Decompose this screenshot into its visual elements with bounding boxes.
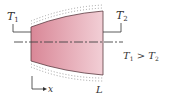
t2-leader-line: [103, 23, 121, 32]
t1-label: T1: [7, 10, 19, 24]
temperature-relation-label: T1 > T2: [123, 50, 159, 62]
fin-body: [31, 11, 103, 75]
t1-leader-line: [13, 24, 31, 32]
x-axis-arrowhead-icon: [43, 87, 47, 91]
t2-label: T2: [116, 9, 128, 23]
length-label: L: [95, 84, 103, 95]
tapered-fin-diagram: T1 T2 T1 > T2 x L: [0, 0, 172, 102]
x-axis-label: x: [48, 84, 53, 94]
x-axis-line: [32, 76, 43, 89]
